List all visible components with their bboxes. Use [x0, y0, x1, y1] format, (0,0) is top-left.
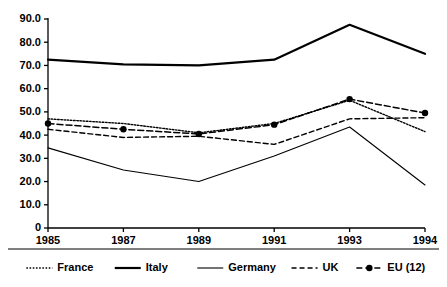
- series-line-uk: [48, 118, 425, 145]
- legend-label: Italy: [146, 261, 169, 273]
- y-axis-tick-label: 70.0: [20, 59, 41, 71]
- x-axis-tick-label: 1994: [413, 234, 438, 246]
- chart-legend: FranceItalyGermanyUKEU (12): [8, 249, 439, 273]
- x-axis-tick-label: 1985: [36, 234, 60, 246]
- chart-canvas: 010.020.030.040.050.060.070.080.090.0 19…: [0, 0, 447, 287]
- y-axis-tick-label: 0: [35, 221, 41, 233]
- y-axis-tick-label: 50.0: [20, 105, 41, 117]
- series-line-italy: [48, 25, 425, 66]
- legend-item-eu-12[interactable]: EU (12): [356, 261, 425, 273]
- x-axis: 198519871989199119931994: [36, 228, 438, 246]
- line-chart: 010.020.030.040.050.060.070.080.090.0 19…: [0, 0, 447, 287]
- legend-item-italy[interactable]: Italy: [115, 261, 169, 273]
- legend-label: UK: [323, 261, 339, 273]
- series-marker: [346, 96, 352, 102]
- y-axis-tick-label: 10.0: [20, 198, 41, 210]
- series-marker: [45, 120, 51, 126]
- legend-label: France: [57, 261, 93, 273]
- y-axis-tick-label: 90.0: [20, 12, 41, 24]
- y-axis-tick-label: 30.0: [20, 152, 41, 164]
- series-marker: [271, 121, 277, 127]
- legend-label: EU (12): [387, 261, 425, 273]
- y-axis-tick-label: 40.0: [20, 129, 41, 141]
- legend-swatch-marker: [366, 265, 372, 271]
- series-marker: [422, 110, 428, 116]
- x-axis-tick-label: 1991: [262, 234, 286, 246]
- legend-label: Germany: [228, 261, 277, 273]
- y-axis: 010.020.030.040.050.060.070.080.090.0: [20, 12, 48, 233]
- series-layer: [45, 25, 428, 185]
- series-line-eu-12: [48, 99, 425, 134]
- x-axis-tick-label: 1993: [337, 234, 361, 246]
- legend-item-germany[interactable]: Germany: [197, 261, 277, 273]
- legend-item-uk[interactable]: UK: [292, 261, 339, 273]
- y-axis-tick-label: 20.0: [20, 175, 41, 187]
- x-axis-tick-label: 1987: [111, 234, 135, 246]
- series-marker: [120, 126, 126, 132]
- legend-item-france[interactable]: France: [26, 261, 93, 273]
- y-axis-tick-label: 80.0: [20, 36, 41, 48]
- x-axis-tick-label: 1989: [187, 234, 211, 246]
- series-marker: [196, 131, 202, 137]
- y-axis-tick-label: 60.0: [20, 82, 41, 94]
